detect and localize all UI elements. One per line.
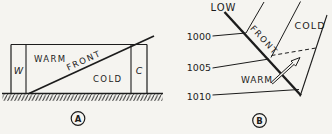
cold-air-label: COLD [295, 20, 326, 31]
warm-air-label: WARM [34, 54, 67, 64]
isobar-1010-warm-segment [213, 90, 300, 96]
isobar-1000-warm-segment [213, 33, 247, 36]
ground-hatching [3, 94, 163, 101]
panel-a-caption: A [71, 112, 85, 126]
panel-a-cross-section: WARM FRONT COLD W C A [2, 36, 163, 125]
cold-air-label: COLD [93, 74, 123, 84]
isobar-1005-label: 1005 [187, 62, 211, 73]
front-label: FRONT [248, 23, 280, 56]
caption-letter: A [75, 114, 82, 124]
figure-canvas: WARM FRONT COLD W C A [0, 0, 332, 134]
low-pressure-label: LOW [211, 2, 237, 13]
weather-front-figure: WARM FRONT COLD W C A [0, 0, 332, 134]
panel-b-caption: B [253, 114, 267, 128]
isobar-1005-warm-segment [213, 59, 270, 68]
isobar-1010-label: 1010 [187, 91, 211, 102]
warm-air-label: WARM [241, 75, 273, 85]
panel-b-surface-map: LOW 1000 1005 1010 FRONT COLD WARM B [187, 2, 327, 128]
caption-letter: B [256, 116, 262, 126]
isobar-1000-label: 1000 [187, 31, 211, 42]
cold-column-letter: C [136, 65, 143, 76]
warm-column-letter: W [14, 65, 24, 76]
